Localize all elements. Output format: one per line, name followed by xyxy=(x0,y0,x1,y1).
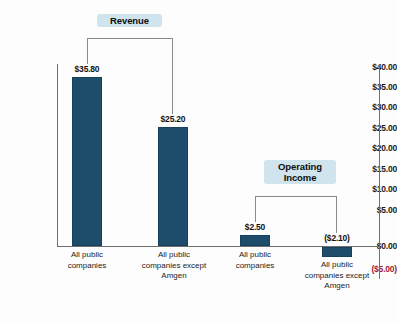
annotation-label-revenue: Revenue xyxy=(97,14,162,27)
y-tick-label-15: $15.00 xyxy=(342,164,397,174)
bar-3-category: All public companies xyxy=(220,250,290,271)
y-tick-label-25: $25.00 xyxy=(342,123,397,133)
bar-4-category: All public companies except Amgen xyxy=(298,260,376,292)
y-tick-label-20: $20.00 xyxy=(342,143,397,153)
bar-1-value: $35.80 xyxy=(57,64,117,74)
y-tick-label-35: $35.00 xyxy=(342,82,397,92)
y-tick-label-5: $5.00 xyxy=(342,205,397,215)
bar-3 xyxy=(240,235,270,246)
bar-chart: $40.00 $35.00 $30.00 $25.00 $20.00 $15.0… xyxy=(0,0,397,323)
y-tick-label-10: $10.00 xyxy=(342,184,397,194)
annotation-label-operating-income: Operating Income xyxy=(264,160,336,184)
bar-4-value: ($2.10) xyxy=(307,233,367,243)
plot-right-border xyxy=(379,64,380,279)
y-tick-label-40: $40.00 xyxy=(342,62,397,72)
bar-1 xyxy=(72,77,102,246)
y-tick-label-30: $30.00 xyxy=(342,102,397,112)
y-axis-line xyxy=(57,64,58,247)
bar-2-value: $25.20 xyxy=(143,114,203,124)
bar-2-category: All public companies except Amgen xyxy=(135,250,213,282)
bar-1-category: All public companies xyxy=(52,250,122,271)
bar-3-value: $2.50 xyxy=(225,222,285,232)
bar-4 xyxy=(322,247,352,257)
bar-2 xyxy=(158,127,188,246)
